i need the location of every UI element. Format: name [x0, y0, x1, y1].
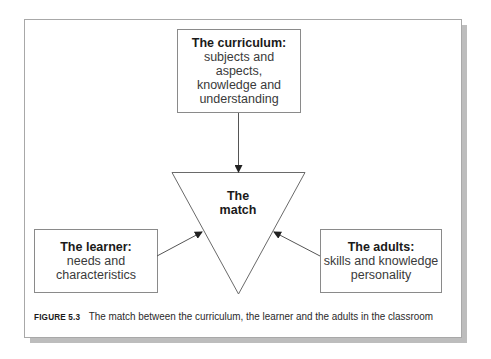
curriculum-line: aspects, — [178, 64, 300, 78]
match-label: The match — [203, 189, 273, 217]
arrow-learner-to-match — [157, 232, 202, 256]
adults-line: personality — [321, 268, 441, 282]
caption-text: The match between the curriculum, the le… — [89, 310, 433, 322]
adults-box: The adults: skills and knowledge persona… — [321, 230, 441, 292]
learner-title: The learner: — [35, 240, 157, 254]
match-line: match — [203, 203, 273, 217]
figure-label: FIGURE 5.3 — [34, 311, 80, 322]
learner-box: The learner: needs and characteristics — [35, 230, 157, 292]
curriculum-line: knowledge and — [178, 78, 300, 92]
match-line: The — [203, 189, 273, 203]
curriculum-line: subjects and — [178, 50, 300, 64]
adults-line: skills and knowledge — [321, 254, 441, 268]
learner-line: needs and — [35, 254, 157, 268]
arrow-adults-to-match — [274, 232, 320, 256]
figure-caption: FIGURE 5.3The match between the curricul… — [34, 310, 433, 322]
curriculum-line: understanding — [178, 92, 300, 106]
adults-title: The adults: — [321, 240, 441, 254]
curriculum-box: The curriculum: subjects and aspects, kn… — [178, 30, 300, 112]
learner-line: characteristics — [35, 268, 157, 282]
curriculum-title: The curriculum: — [178, 36, 300, 50]
